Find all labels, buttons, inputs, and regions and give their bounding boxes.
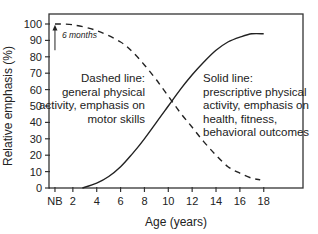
x-tick-label: 8 (141, 195, 147, 207)
x-tick-label: 2 (70, 195, 76, 207)
x-tick-label: 10 (162, 195, 174, 207)
solid-line-label: health, fitness, (203, 113, 277, 125)
dashed-line-label: motor skills (87, 113, 145, 125)
x-axis-label: Age (years) (145, 215, 207, 229)
dashed-line-label: Dashed line: (81, 72, 145, 84)
solid-line-label: behavioral outcomes (203, 126, 309, 138)
six-months-label: 6 months (62, 30, 98, 40)
dashed-line-label: general physical (62, 86, 145, 98)
y-tick-label: 90 (30, 34, 42, 46)
x-tick-label: 4 (94, 195, 100, 207)
y-tick-label: 20 (30, 149, 42, 161)
arrow-head-icon (52, 25, 57, 31)
y-tick-label: 70 (30, 67, 42, 79)
x-tick-label: 18 (258, 195, 270, 207)
y-axis-label: Relative emphasis (%) (1, 46, 15, 166)
solid-line-label: activity, emphasis on (203, 99, 309, 111)
chart: 0102030405060708090100 NB24681012141618 … (0, 0, 318, 234)
annotations: 6 monthsDashed line:general physicalacti… (39, 25, 309, 138)
solid-line-label: prescriptive physical (203, 86, 307, 98)
solid-line-label: Solid line: (203, 72, 253, 84)
dashed-line-label: activity, emphasis on (39, 99, 145, 111)
y-tick-label: 80 (30, 51, 42, 63)
x-tick-label: 12 (186, 195, 198, 207)
x-tick-label: 6 (118, 195, 124, 207)
x-tick-label: 16 (234, 195, 246, 207)
y-tick-label: 0 (36, 182, 42, 194)
y-tick-label: 30 (30, 133, 42, 145)
y-tick-label: 40 (30, 116, 42, 128)
x-tick-label: 14 (210, 195, 222, 207)
y-tick-label: 100 (24, 18, 42, 30)
y-tick-label: 60 (30, 84, 42, 96)
y-tick-label: 10 (30, 166, 42, 178)
x-axis-ticks: NB24681012141618 (47, 187, 270, 207)
x-tick-label: NB (47, 195, 62, 207)
